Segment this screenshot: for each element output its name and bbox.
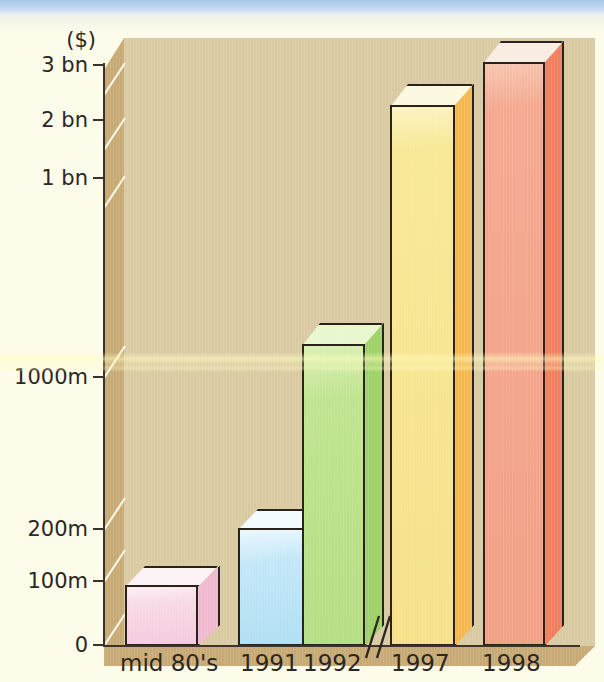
y-axis-unit-label: ($) [0,28,96,52]
bar-front-face [238,528,311,646]
bar-front-face [483,62,545,646]
bar-1998[interactable] [483,62,545,646]
x-tick-label-1998: 1998 [482,650,541,676]
bar-front-face [125,585,198,646]
page-scan-band [0,0,604,16]
y-tick-label-3bn: 3 bn [41,53,88,77]
bar-1997[interactable] [390,105,455,646]
y-tick-6 [93,644,104,646]
bar-front-face [390,105,455,646]
y-tick-label-1000m: 1000m [14,365,88,389]
y-tick-5 [93,580,104,582]
x-tick-label-1997: 1997 [391,650,450,676]
x-tick-label-1991: 1991 [240,650,299,676]
bar-1992[interactable] [302,344,365,646]
bar-mid-80s[interactable] [125,585,198,646]
y-tick-label-2bn: 2 bn [41,108,88,132]
y-tick-0 [93,64,104,66]
y-axis-tick-labels: ($) 3 bn 2 bn 1 bn 1000m 200m 100m 0 [0,0,88,682]
chart-figure: ($) 3 bn 2 bn 1 bn 1000m 200m 100m 0 mid… [0,0,604,682]
bar-front-face [302,344,365,646]
y-tick-label-200m: 200m [27,517,88,541]
y-axis-line [103,63,105,647]
x-axis-tick-labels: mid 80's 1991 1992 1997 1998 [0,650,604,682]
y-tick-1 [93,119,104,121]
bar-side-face [545,41,564,646]
x-tick-label-1992: 1992 [303,650,362,676]
bar-side-face [455,84,474,646]
x-tick-label-mid-80s: mid 80's [120,650,218,676]
bar-side-face [365,323,384,646]
x-axis-line [103,645,580,647]
plot-left-wall [104,38,124,666]
y-tick-2 [93,177,104,179]
bar-1991[interactable] [238,528,311,646]
y-tick-label-100m: 100m [27,569,88,593]
y-tick-3 [93,376,104,378]
y-tick-label-1bn: 1 bn [41,166,88,190]
y-tick-4 [93,528,104,530]
